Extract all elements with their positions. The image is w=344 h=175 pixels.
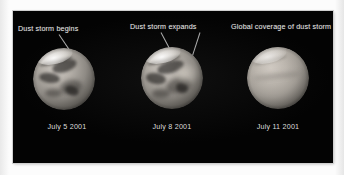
- mars-globe-july-5: [33, 48, 95, 110]
- mars-disc: [33, 48, 95, 110]
- annotation-dust-storm-begins: Dust storm begins: [18, 25, 78, 32]
- annotation-global-coverage: Global coverage of dust storm: [231, 23, 331, 30]
- limb-darkening: [247, 47, 309, 109]
- caption-july-11: July 11 2001: [223, 123, 333, 130]
- image-panel: Dust storm begins July 5 2001: [13, 11, 333, 163]
- mars-disc: [247, 47, 309, 109]
- limb-darkening: [33, 48, 95, 110]
- limb-darkening: [141, 47, 203, 109]
- mars-dust-storm-figure: Dust storm begins July 5 2001: [0, 0, 344, 175]
- mars-globe-july-8: [141, 47, 203, 109]
- caption-july-5: July 5 2001: [13, 123, 121, 130]
- panel-july-5: Dust storm begins July 5 2001: [13, 11, 121, 163]
- panel-july-8: Dust storm expands Ju: [117, 11, 227, 163]
- mars-disc: [141, 47, 203, 109]
- mars-globe-july-11: [247, 47, 309, 109]
- annotation-dust-storm-expands: Dust storm expands: [130, 23, 197, 30]
- caption-july-8: July 8 2001: [117, 123, 227, 130]
- panel-july-11: Global coverage of dust storm July 11 20…: [223, 11, 333, 163]
